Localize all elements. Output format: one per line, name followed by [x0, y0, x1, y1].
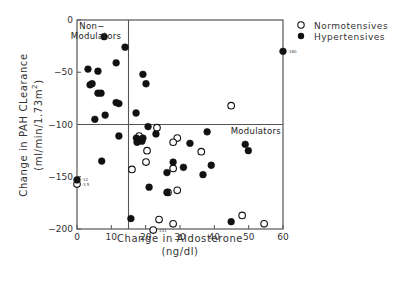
y-tick-label: −100	[48, 120, 73, 130]
y-axis-title: Change in PAH CLearance	[18, 53, 29, 196]
filled-circle-icon	[298, 33, 304, 39]
hypertensive-point	[204, 128, 211, 135]
hypertensive-point	[143, 80, 150, 87]
x-tick-label: 10	[106, 232, 118, 242]
hypertensive-point	[91, 116, 98, 123]
normotensive-point	[170, 165, 177, 172]
nonmodulators-label-line1: Non−	[79, 21, 104, 31]
legend-item-normotensives: Normotensives	[298, 21, 388, 31]
hypertensive-point	[98, 90, 105, 97]
nonmodulators-label-line2: Modulators	[71, 31, 122, 41]
x-tick-label: 0	[74, 232, 80, 242]
y-tick-label: −50	[54, 67, 73, 77]
hypertensive-point	[133, 110, 140, 117]
hypertensive-point	[74, 176, 81, 183]
normotensive-point	[154, 124, 161, 131]
normotensive-point	[174, 187, 181, 194]
legend-label-normotensives: Normotensives	[314, 21, 388, 31]
point-annotation: -3.5	[82, 182, 90, 187]
hypertensive-point	[113, 59, 120, 66]
normotensive-point	[156, 216, 163, 223]
y-tick-label: 0	[67, 15, 73, 25]
hypertensive-point	[85, 66, 92, 73]
y-axis-title-group: Change in PAH CLearance	[18, 53, 29, 196]
x-axis-title: Change in Aldosterone	[117, 233, 243, 244]
hypertensive-point	[87, 81, 94, 88]
point-annotation: -180	[288, 49, 298, 54]
hypertensive-point	[280, 48, 287, 55]
normotensive-point	[170, 139, 177, 146]
y-axis-units: (ml/min/1.73m2)	[31, 79, 44, 170]
hypertensive-point	[228, 218, 235, 225]
x-tick-label: 50	[243, 232, 255, 242]
normotensive-point	[228, 102, 235, 109]
hypertensive-point	[95, 68, 102, 75]
hypertensive-point	[153, 131, 160, 138]
hypertensive-point	[164, 189, 171, 196]
hypertensive-point	[187, 140, 194, 147]
y-units-text: (ml/min/1.73m	[33, 89, 44, 171]
y-tick-label: −150	[48, 172, 73, 182]
hypertensive-point	[180, 164, 187, 171]
hypertensive-point	[146, 184, 153, 191]
y-tick-label: −200	[48, 224, 73, 234]
reference-lines	[77, 20, 283, 229]
x-tick-label: 60	[277, 232, 289, 242]
hypertensive-point	[102, 112, 109, 119]
hypertensive-point	[140, 135, 147, 142]
modulators-label: Modulators	[231, 126, 282, 136]
hypertensive-point	[140, 71, 147, 78]
legend-label-hypertensives: Hypertensives	[314, 32, 385, 42]
normotensive-point	[129, 166, 136, 173]
hypertensive-point	[128, 215, 135, 222]
hypertensive-point	[242, 141, 249, 148]
normotensive-point	[170, 220, 177, 227]
hypertensive-point	[170, 159, 177, 166]
legend: Normotensives Hypertensives	[298, 21, 388, 42]
hypertensive-point	[115, 133, 122, 140]
hypertensive-point	[122, 44, 129, 51]
hypertensive-point	[115, 100, 122, 107]
open-circle-icon	[298, 22, 304, 28]
x-axis-units: (ng/dl)	[161, 246, 198, 257]
point-annotation: -241	[158, 228, 168, 233]
hypertensive-point	[208, 162, 215, 169]
hypertensive-point	[200, 171, 207, 178]
hypertensive-point	[145, 123, 152, 130]
normotensive-point	[143, 159, 150, 166]
hypertensive-point	[245, 147, 252, 154]
normotensive-point	[198, 148, 205, 155]
legend-item-hypertensives: Hypertensives	[298, 32, 385, 42]
hypertensive-point	[98, 158, 105, 165]
y-axis-units-group: (ml/min/1.73m2)	[31, 79, 44, 170]
scatter-chart: 01020304050600−50−100−150−200 -180-12-3.…	[0, 0, 396, 281]
normotensive-point	[144, 147, 151, 154]
y-units-close: )	[33, 79, 44, 84]
normotensive-point	[261, 220, 268, 227]
normotensive-point	[239, 212, 246, 219]
hypertensive-point	[164, 169, 171, 176]
